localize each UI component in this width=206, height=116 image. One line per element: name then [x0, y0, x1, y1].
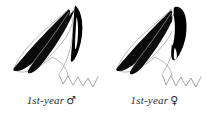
female-symbol: ♀ [168, 94, 178, 107]
tail-scallop-line-female [162, 75, 201, 87]
illustration-plate: 1st-year♂ [0, 0, 206, 116]
bird-plumage-drawing-male [0, 0, 103, 92]
primary-feather-second-male [28, 10, 74, 73]
male-symbol: ♂ [64, 94, 76, 107]
caption-text-female: 1st-year [131, 94, 169, 106]
caption-first-year-male: 1st-year♂ [0, 92, 103, 109]
caption-first-year-female: 1st-year♀ [103, 92, 206, 109]
primary-feather-second-female [130, 11, 176, 74]
figure-first-year-male: 1st-year♂ [0, 0, 103, 116]
figure-first-year-female: 1st-year♀ [103, 0, 206, 116]
bird-plumage-drawing-female [103, 0, 206, 92]
caption-text-male: 1st-year [27, 94, 65, 106]
tail-scallop-line-male [59, 75, 98, 87]
